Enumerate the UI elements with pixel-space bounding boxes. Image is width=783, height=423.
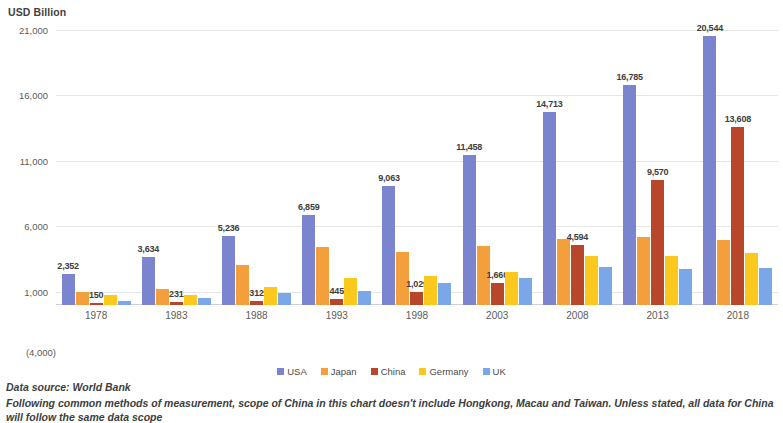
bar-rect (104, 295, 117, 305)
bar-germany[interactable] (665, 30, 678, 305)
footnote-scope-note: Following common methods of measurement,… (6, 396, 778, 423)
bar-china[interactable]: 1,660 (491, 30, 504, 305)
bar-germany[interactable] (585, 30, 598, 305)
bar-japan[interactable] (236, 30, 249, 305)
bar-rect (679, 269, 692, 305)
legend-label: USA (287, 366, 307, 377)
bar-uk[interactable] (679, 30, 692, 305)
bar-group: 14,7134,594 (537, 30, 617, 305)
bar-rect (759, 268, 772, 305)
legend-item-china[interactable]: China (371, 366, 406, 377)
bar-usa[interactable]: 6,859 (302, 30, 315, 305)
bar-rect (717, 240, 730, 305)
bar-rect (599, 267, 612, 305)
bar-germany[interactable] (184, 30, 197, 305)
bar-usa[interactable]: 11,458 (463, 30, 476, 305)
bar-japan[interactable] (76, 30, 89, 305)
bar-uk[interactable] (759, 30, 772, 305)
bar-rect (118, 301, 131, 306)
bar-uk[interactable] (438, 30, 451, 305)
bar-germany[interactable] (505, 30, 518, 305)
chart-legend: USAJapanChinaGermanyUK (0, 366, 783, 377)
bar-china[interactable]: 13,608 (731, 30, 744, 305)
bar-rect (184, 295, 197, 305)
bar-china[interactable]: 445 (330, 30, 343, 305)
legend-label: UK (493, 366, 506, 377)
bar-group: 3,634231 (136, 30, 216, 305)
bar-germany[interactable] (104, 30, 117, 305)
legend-item-japan[interactable]: Japan (321, 366, 357, 377)
legend-item-uk[interactable]: UK (483, 366, 506, 377)
bar-china[interactable]: 4,594 (571, 30, 584, 305)
bar-uk[interactable] (118, 30, 131, 305)
bar-uk[interactable] (278, 30, 291, 305)
bar-rect (62, 274, 75, 305)
bar-rect (278, 293, 291, 305)
bar-usa[interactable]: 5,236 (222, 30, 235, 305)
chart-footnotes: Data source: World Bank Following common… (6, 380, 778, 423)
y-axis-tick-label: 21,000 (0, 25, 48, 36)
bar-rect (330, 299, 343, 305)
bar-rect (156, 289, 169, 305)
bar-china[interactable]: 1,029 (410, 30, 423, 305)
x-axis-tick-label: 2003 (457, 310, 537, 321)
bar-uk[interactable] (358, 30, 371, 305)
bar-group: 20,54413,608 (698, 30, 778, 305)
bar-china[interactable]: 231 (170, 30, 183, 305)
bar-rect (222, 236, 235, 305)
bar-rect (557, 239, 570, 305)
bar-japan[interactable] (717, 30, 730, 305)
bar-china[interactable]: 312 (250, 30, 263, 305)
footnote-data-source: Data source: World Bank (6, 380, 778, 395)
bar-uk[interactable] (599, 30, 612, 305)
bar-usa[interactable]: 3,634 (142, 30, 155, 305)
bar-germany[interactable] (424, 30, 437, 305)
x-axis-tick-label: 2008 (537, 310, 617, 321)
bar-group: 16,7859,570 (618, 30, 698, 305)
bar-group: 5,236312 (216, 30, 296, 305)
legend-item-usa[interactable]: USA (277, 366, 307, 377)
bar-usa[interactable]: 9,063 (382, 30, 395, 305)
x-axis-tick-label: 1978 (56, 310, 136, 321)
bar-rect (438, 283, 451, 305)
bar-china[interactable]: 9,570 (651, 30, 664, 305)
bar-germany[interactable] (745, 30, 758, 305)
bar-germany[interactable] (264, 30, 277, 305)
bar-japan[interactable] (557, 30, 570, 305)
bar-rect (665, 256, 678, 305)
bar-rect (316, 247, 329, 305)
x-axis-tick-label: 1983 (136, 310, 216, 321)
bar-uk[interactable] (519, 30, 532, 305)
bar-rect (571, 245, 584, 305)
legend-swatch-icon (483, 368, 490, 375)
bar-value-label: 231 (169, 289, 183, 299)
bar-value-label: 150 (89, 290, 103, 300)
bar-japan[interactable] (396, 30, 409, 305)
bar-rect (637, 237, 650, 305)
bar-japan[interactable] (477, 30, 490, 305)
bar-rect (358, 291, 371, 305)
bar-rect (424, 276, 437, 305)
bar-usa[interactable]: 14,713 (543, 30, 556, 305)
y-axis-tick-label: 1,000 (0, 286, 48, 297)
bar-rect (543, 112, 556, 305)
legend-item-germany[interactable]: Germany (419, 366, 468, 377)
bar-uk[interactable] (198, 30, 211, 305)
bar-rect (344, 278, 357, 305)
bar-usa[interactable]: 16,785 (623, 30, 636, 305)
legend-swatch-icon (321, 368, 328, 375)
y-axis-negative-label: (4,000) (8, 347, 56, 358)
bar-china[interactable]: 150 (90, 30, 103, 305)
bar-groups: 2,3521503,6342315,2363126,8594459,0631,0… (56, 30, 778, 305)
bar-usa[interactable]: 2,352 (62, 30, 75, 305)
bar-group: 11,4581,660 (457, 30, 537, 305)
bar-group: 6,859445 (297, 30, 377, 305)
bar-rect (651, 180, 664, 305)
bar-japan[interactable] (156, 30, 169, 305)
bar-japan[interactable] (316, 30, 329, 305)
legend-label: Japan (331, 366, 357, 377)
bar-usa[interactable]: 20,544 (703, 30, 716, 305)
legend-label: China (381, 366, 406, 377)
bar-rect (90, 303, 103, 305)
bar-germany[interactable] (344, 30, 357, 305)
